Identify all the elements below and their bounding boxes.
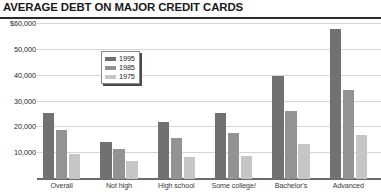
x-axis-tick-labels: OverallNot highHigh schoolSome college/B… bbox=[37, 0, 381, 194]
y-axis-tick-label: 50,000 bbox=[0, 44, 36, 53]
legend-swatch bbox=[105, 57, 116, 61]
legend-item: 1975 bbox=[105, 72, 135, 81]
legend-label: 1995 bbox=[119, 54, 135, 63]
y-axis-tick-label: 10,000 bbox=[0, 148, 36, 157]
x-axis-tick-label: Some college/ bbox=[212, 181, 256, 190]
x-axis-tick-label: Bachelor's bbox=[275, 181, 307, 190]
legend-item: 1985 bbox=[105, 63, 135, 72]
y-axis-tick-label: 40,000 bbox=[0, 70, 36, 79]
legend-label: 1975 bbox=[119, 72, 135, 81]
chart-legend: 199519851975 bbox=[101, 51, 140, 84]
x-axis-tick-label: Not high bbox=[106, 181, 132, 190]
legend-label: 1985 bbox=[119, 63, 135, 72]
legend-swatch bbox=[105, 75, 116, 79]
chart-figure: AVERAGE DEBT ON MAJOR CREDIT CARDS $60,0… bbox=[0, 0, 381, 194]
legend-swatch bbox=[105, 66, 116, 70]
y-axis-tick-label: 30,000 bbox=[0, 96, 36, 105]
y-axis-tick-label: 20,000 bbox=[0, 122, 36, 131]
x-axis-tick-label: Overall bbox=[51, 181, 73, 190]
y-axis-tick-label: $60,000 bbox=[0, 19, 36, 28]
x-axis-tick-label: High school bbox=[158, 181, 194, 190]
legend-item: 1995 bbox=[105, 54, 135, 63]
x-axis-tick-label: Advanced bbox=[333, 181, 364, 190]
